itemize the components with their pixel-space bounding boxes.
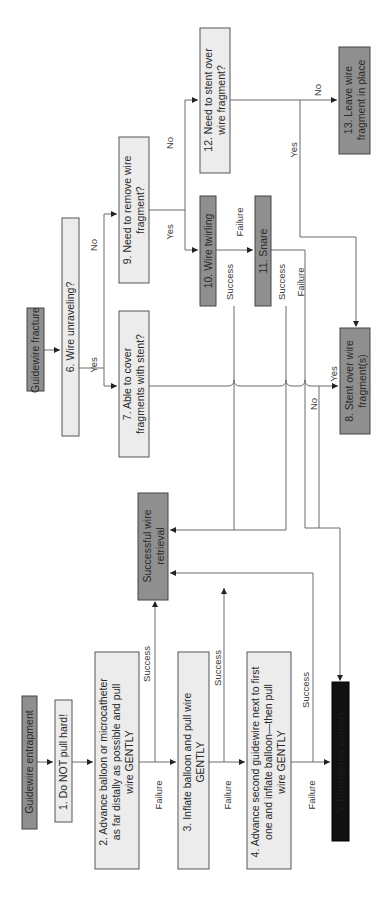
node-4-line-1: 4. Advance second guidewire next to firs… [249, 666, 261, 857]
node-2-line-1: 2. Advance balloon or microcatheter [97, 678, 109, 846]
label-no-12: No [312, 84, 323, 96]
node-10-wire-twirling: 10. Wire twirling [200, 196, 216, 306]
label-success-3: Success [212, 650, 223, 686]
node-2-line-2: as far distally as possible and pull [110, 684, 122, 840]
label-success-10: Success [224, 264, 235, 300]
node-6-wire-unraveling: 6. Wire unraveling? [62, 218, 79, 436]
flowchart: Guidewire entrapment 1. Do NOT pull hard… [0, 0, 379, 904]
node-9-line-2: fragment? [134, 186, 146, 233]
fracture-label: Guidewire fracture [29, 307, 41, 393]
label-no-7: No [308, 398, 319, 410]
node-1-label: 1. Do NOT pull hard! [57, 714, 69, 810]
label-failure-4: Failure [306, 780, 317, 809]
node-4-advance-second-guidewire: 4. Advance second guidewire next to firs… [247, 652, 291, 869]
entrapment-label: Guidewire entrapment [23, 710, 35, 813]
label-no-6: No [88, 239, 99, 251]
node-8-line-1: 8. Stent over wire [343, 340, 355, 422]
node-12-need-to-stent: 12. Need to stent over wire fragment? [200, 28, 230, 173]
label-no-9: No [164, 137, 175, 149]
node-successful-wire-retrieval: Successful wire retrieval [138, 493, 168, 600]
node-13-line-2: fragment in place [355, 60, 367, 141]
node-11-snare: 11. Snare [255, 196, 271, 306]
node-8-line-2: fragment(s) [356, 354, 368, 408]
node-9-line-1: 9. Need to remove wire [121, 156, 133, 265]
node-9-need-to-remove: 9. Need to remove wire fragment? [119, 137, 149, 283]
label-yes-7: Yes [328, 366, 339, 382]
node-12-line-2: wire fragment? [215, 65, 227, 136]
node-7-able-to-cover: 7. Able to cover fragments with stent? [119, 311, 149, 457]
node-6-label: 6. Wire unraveling? [64, 282, 76, 373]
node-10-label: 10. Wire twirling [202, 213, 214, 288]
success-line-2: retrieval [154, 527, 166, 564]
label-failure-10: Failure [234, 207, 245, 236]
label-yes-9: Yes [164, 224, 175, 240]
label-yes-12: Yes [288, 142, 299, 158]
node-7-line-2: fragments with stent? [134, 334, 146, 434]
label-failure-3: Failure [222, 780, 233, 809]
start-guidewire-entrapment: Guidewire entrapment [22, 696, 37, 829]
label-yes-6: Yes [88, 357, 99, 373]
node-3-inflate-balloon: 3. Inflate balloon and pull wire GENTLY [178, 652, 209, 869]
node-3-line-1: 3. Inflate balloon and pull wire [181, 692, 193, 831]
label-failure-2: Failure [153, 780, 164, 809]
node-13-leave-wire-fragment: 13. Leave wire fragment in place [339, 47, 370, 154]
node-5-emergency-surgery: 5. Emergency surgery [332, 682, 349, 841]
node-5-label: 5. Emergency surgery [334, 710, 346, 813]
node-1-do-not-pull-hard: 1. Do NOT pull hard! [55, 700, 72, 822]
label-success-4: Success [300, 672, 311, 708]
node-4-line-3: wire GENTLY [275, 730, 287, 794]
node-8-stent-over-wire: 8. Stent over wire fragment(s) [340, 328, 370, 434]
start-guidewire-fracture: Guidewire fracture [27, 307, 44, 393]
node-13-line-1: 13. Leave wire [342, 66, 354, 134]
label-success-2: Success [141, 646, 152, 682]
node-2-advance-balloon: 2. Advance balloon or microcatheter as f… [95, 652, 139, 869]
node-7-line-1: 7. Able to cover [121, 347, 133, 420]
node-4-line-2: one and inflate balloon—then pull [262, 684, 274, 840]
label-success-11: Success [276, 264, 287, 300]
success-line-1: Successful wire [141, 509, 153, 582]
node-11-label: 11. Snare [257, 228, 269, 273]
node-12-line-1: 12. Need to stent over [202, 48, 214, 152]
node-2-line-3: wire GENTLY [123, 730, 135, 794]
label-failure-11: Failure [295, 267, 306, 296]
node-3-line-2: GENTLY [194, 741, 206, 782]
